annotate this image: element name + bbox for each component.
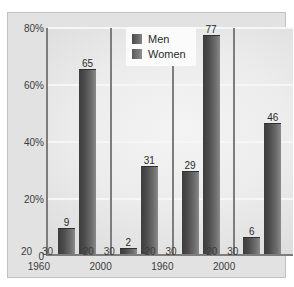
chart-figure-panel: 80%60%40%20%09652312977646 Men Women 203… — [7, 12, 286, 278]
y-axis-tick-label: 80% — [24, 23, 44, 34]
group-separator — [110, 28, 112, 254]
bar: 46 — [264, 123, 281, 254]
legend-item-men: Men — [132, 31, 186, 46]
x-axis-year-label: 2000 — [79, 261, 123, 272]
chart-screenshot: 80%60%40%20%09652312977646 Men Women 203… — [0, 0, 294, 287]
x-axis-year-label: 1960 — [140, 261, 184, 272]
legend-item-women: Women — [132, 46, 186, 61]
bar: 9 — [58, 228, 75, 254]
bar-value-label: 6 — [249, 226, 255, 237]
x-axis-year-label: 1960 — [17, 261, 61, 272]
bar-value-label: 65 — [82, 58, 93, 69]
legend-swatch-women-icon — [132, 49, 142, 59]
x-axis-age-label: 30 — [221, 246, 245, 257]
bar-value-label: 77 — [205, 24, 216, 35]
y-axis-tick-label: 40% — [24, 137, 44, 148]
y-axis-tick-label: 20% — [24, 194, 44, 205]
bar: 31 — [141, 166, 158, 254]
bar: 6 — [243, 237, 260, 254]
bar-value-label: 29 — [184, 160, 195, 171]
top-caption-fragment — [8, 0, 178, 4]
bar-value-label: 31 — [144, 155, 155, 166]
y-axis-tick-label: 60% — [24, 80, 44, 91]
x-axis-year-label: 2000 — [202, 261, 246, 272]
x-axis-title-age: Age — [0, 246, 5, 257]
chart-legend: Men Women — [126, 27, 196, 66]
x-axis-age-label: 30 — [36, 246, 60, 257]
bar-value-label: 9 — [64, 217, 70, 228]
bar: 77 — [203, 35, 220, 254]
bar: 65 — [79, 69, 96, 254]
legend-swatch-men-icon — [132, 34, 142, 44]
bar: 2 — [120, 248, 137, 254]
x-axis-age-label: 30 — [97, 246, 121, 257]
group-separator — [233, 28, 235, 254]
bar-value-label: 2 — [125, 237, 131, 248]
x-axis-age-label: 30 — [159, 246, 183, 257]
bar-value-label: 46 — [267, 112, 278, 123]
legend-label-men: Men — [148, 33, 169, 45]
bar: 29 — [182, 171, 199, 254]
legend-label-women: Women — [148, 48, 186, 60]
